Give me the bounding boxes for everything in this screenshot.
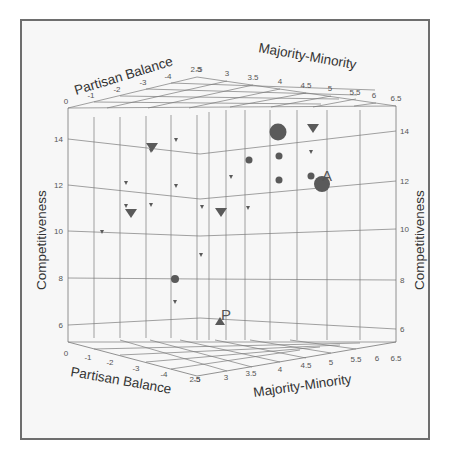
- triangle-down-small: [229, 175, 233, 179]
- pb-bottom-label: Partisan Balance: [69, 364, 172, 396]
- svg-text:5.5: 5.5: [350, 355, 362, 364]
- svg-text:0: 0: [64, 349, 69, 358]
- circle-markers: [171, 124, 330, 284]
- vertical-grid: [68, 106, 396, 342]
- comp-right-label: Competitiveness: [412, 190, 427, 290]
- svg-text:10: 10: [54, 227, 63, 236]
- triangle-down-large: [215, 208, 227, 217]
- triangle-down-large: [125, 209, 137, 218]
- circle-marker-large: [270, 124, 287, 141]
- svg-text:-1: -1: [84, 353, 92, 362]
- svg-text:3.5: 3.5: [245, 369, 257, 378]
- svg-text:-2: -2: [113, 85, 121, 94]
- circle-marker: [276, 153, 283, 160]
- svg-text:6: 6: [400, 325, 405, 334]
- svg-text:3: 3: [224, 373, 229, 382]
- down-triangle-markers: [100, 124, 319, 304]
- svg-text:-2: -2: [106, 358, 114, 367]
- svg-text:14: 14: [400, 127, 409, 136]
- scatter-3d-chart: 0 -1 -2 -3 -4 -5 2.5 3 3.5 4 4.5 5 5.5 6…: [0, 0, 449, 459]
- svg-text:6: 6: [372, 91, 377, 100]
- triangle-down-small: [246, 206, 250, 210]
- z-right-ticks: 14 12 10 8 6: [400, 127, 409, 334]
- svg-text:6.5: 6.5: [390, 94, 402, 103]
- svg-text:10: 10: [400, 225, 409, 234]
- circle-marker: [246, 157, 253, 164]
- mm-top-label: Majority-Minority: [257, 40, 357, 72]
- svg-text:4: 4: [278, 77, 283, 86]
- svg-text:5.5: 5.5: [349, 88, 361, 97]
- triangle-down-small: [124, 181, 128, 185]
- svg-text:8: 8: [400, 276, 405, 285]
- comp-left-label: Competitiveness: [34, 190, 49, 290]
- annotation-a: A: [322, 167, 332, 184]
- triangle-down-small: [174, 184, 178, 188]
- pb-top-label: Partisan Balance: [72, 54, 174, 98]
- triangle-down-small: [199, 253, 203, 257]
- svg-text:6: 6: [59, 321, 64, 330]
- triangle-down-small: [124, 204, 128, 208]
- circle-marker: [276, 177, 283, 184]
- annotation-p: P: [221, 306, 231, 323]
- svg-text:14: 14: [54, 135, 63, 144]
- circle-marker: [308, 173, 315, 180]
- svg-text:5: 5: [329, 358, 334, 367]
- bottom-grid: [68, 340, 396, 376]
- svg-text:4: 4: [278, 365, 283, 374]
- svg-text:3.5: 3.5: [247, 73, 259, 82]
- triangle-down-small: [173, 300, 177, 304]
- circle-marker: [171, 275, 179, 283]
- svg-text:0: 0: [64, 97, 69, 106]
- svg-text:-3: -3: [132, 364, 140, 373]
- svg-text:-4: -4: [164, 72, 172, 81]
- z-grid: [68, 131, 396, 329]
- svg-text:4.5: 4.5: [300, 81, 312, 90]
- triangle-down-large: [307, 124, 319, 133]
- svg-text:6: 6: [375, 354, 380, 363]
- svg-text:-3: -3: [139, 78, 147, 87]
- svg-text:2.5: 2.5: [190, 65, 202, 74]
- svg-text:3: 3: [225, 69, 230, 78]
- svg-text:8: 8: [59, 274, 64, 283]
- triangle-down-small: [149, 203, 153, 207]
- z-left-ticks: 14 12 10 8 6: [54, 135, 63, 330]
- svg-text:-4: -4: [160, 370, 168, 379]
- triangle-down-small: [200, 205, 204, 209]
- svg-text:2.5: 2.5: [189, 375, 201, 384]
- mm-bottom-label: Majority-Minority: [252, 371, 352, 400]
- svg-text:6.5: 6.5: [390, 354, 402, 363]
- svg-text:5: 5: [328, 84, 333, 93]
- triangle-down-small: [309, 150, 313, 154]
- svg-text:12: 12: [400, 177, 409, 186]
- triangle-down-small: [174, 138, 178, 142]
- svg-text:4.5: 4.5: [300, 361, 312, 370]
- svg-text:12: 12: [54, 181, 63, 190]
